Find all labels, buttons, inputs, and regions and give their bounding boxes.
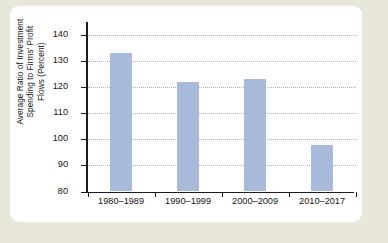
bar[interactable] <box>244 79 266 191</box>
y-tick-mark <box>81 192 87 193</box>
y-tick-mark <box>81 113 87 114</box>
y-tick-mark <box>81 61 87 62</box>
y-tick-mark <box>81 87 87 88</box>
y-tick-label: 90 <box>28 159 68 169</box>
y-tick-label: 110 <box>28 107 68 117</box>
x-axis-line <box>86 192 354 194</box>
bar[interactable] <box>110 53 132 191</box>
y-tick-mark <box>81 165 87 166</box>
y-tick-label: 80 <box>28 186 68 196</box>
gridline <box>88 35 356 36</box>
bar[interactable] <box>311 145 333 192</box>
x-tick-label: 2000–2009 <box>220 196 290 206</box>
y-tick-label: 120 <box>28 81 68 91</box>
y-tick-label: 100 <box>28 133 68 143</box>
y-axis-title-line-3: Flows (Percent) <box>37 0 47 148</box>
y-tick-label: 130 <box>28 55 68 65</box>
y-tick-label: 140 <box>28 29 68 39</box>
y-axis-line <box>86 22 88 192</box>
x-tick-label: 2010–2017 <box>287 196 357 206</box>
bar[interactable] <box>177 82 199 192</box>
y-axis-title: Average Ratio of Investment Spending to … <box>16 0 47 148</box>
y-axis-title-line-2: Spending to Firms' Profit <box>27 0 37 148</box>
x-tick-label: 1980–1989 <box>86 196 156 206</box>
figure-card: Average Ratio of Investment Spending to … <box>10 6 362 222</box>
x-tick-label: 1990–1999 <box>153 196 223 206</box>
y-axis-title-line-1: Average Ratio of Investment <box>16 0 26 148</box>
y-tick-mark <box>81 139 87 140</box>
bar-chart-plot-area: Average Ratio of Investment Spending to … <box>10 6 362 222</box>
y-tick-mark <box>81 35 87 36</box>
